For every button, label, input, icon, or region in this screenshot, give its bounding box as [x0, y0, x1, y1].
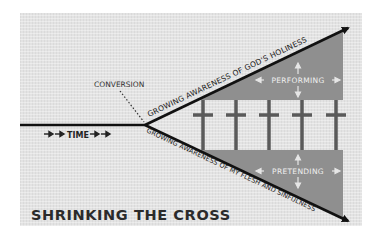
cross-icon: [193, 100, 213, 150]
conversion-label: CONVERSION: [94, 80, 144, 89]
cross-icon: [226, 100, 246, 150]
time-arrows-left-icon: [44, 132, 64, 137]
cross-icon: [326, 100, 346, 150]
crosses: [193, 100, 346, 150]
time-label: TIME: [67, 131, 89, 140]
pretending-label: PRETENDING: [272, 167, 324, 176]
conversion-pointer: [120, 91, 144, 122]
diagram-title: SHRINKING THE CROSS: [31, 207, 231, 223]
cross-icon: [292, 100, 312, 150]
cross-icon: [259, 100, 279, 150]
performing-label: PERFORMING: [271, 76, 324, 85]
time-arrows-right-icon: [90, 132, 110, 137]
